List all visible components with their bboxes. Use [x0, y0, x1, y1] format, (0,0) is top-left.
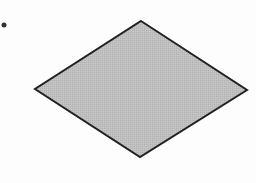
- decision-diamond[interactable]: [35, 21, 247, 157]
- bullet-dot: [2, 23, 7, 28]
- diagram-canvas: [0, 0, 256, 183]
- diagram-svg: [0, 0, 256, 183]
